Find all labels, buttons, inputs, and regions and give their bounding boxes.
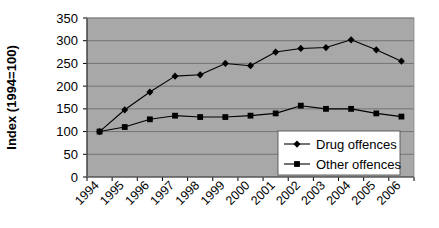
y-axis-title: Index (1994=100) <box>4 45 19 149</box>
data-point-marker <box>348 106 354 112</box>
y-tick-label: 300 <box>56 33 78 48</box>
chart-svg: 050100150200250300350 199419951996199719… <box>0 0 439 228</box>
y-axis-label: Index (1994=100) <box>4 45 19 149</box>
chart-legend[interactable]: Drug offencesOther offences <box>278 131 402 175</box>
data-point-marker <box>222 114 228 120</box>
data-point-marker <box>373 111 379 117</box>
y-tick-label: 350 <box>56 11 78 26</box>
data-point-marker <box>248 113 254 119</box>
line-chart: 050100150200250300350 199419951996199719… <box>0 0 439 228</box>
y-tick-label: 50 <box>64 147 78 162</box>
data-point-marker <box>122 124 128 130</box>
data-point-marker <box>399 114 405 120</box>
data-point-marker <box>147 116 153 122</box>
data-point-marker <box>197 114 203 120</box>
legend-label: Drug offences <box>316 137 397 152</box>
y-tick-label: 250 <box>56 56 78 71</box>
legend-marker <box>294 161 300 167</box>
data-point-marker <box>97 129 103 135</box>
y-tick-label: 150 <box>56 101 78 116</box>
data-point-marker <box>323 106 329 112</box>
data-point-marker <box>273 111 279 117</box>
data-point-marker <box>298 103 304 109</box>
data-point-marker <box>172 113 178 119</box>
y-tick-label: 200 <box>56 79 78 94</box>
y-tick-label: 0 <box>71 170 78 185</box>
legend-label: Other offences <box>316 157 402 172</box>
y-tick-label: 100 <box>56 124 78 139</box>
